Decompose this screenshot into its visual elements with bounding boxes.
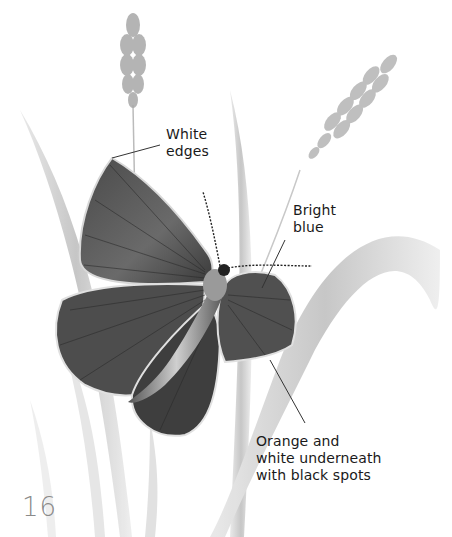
illustration-page: White edges Bright blue Orange and white… (0, 0, 452, 537)
butterfly-illustration (0, 0, 452, 537)
wheat-ear-top (120, 13, 146, 108)
leader-line-white-edges (112, 145, 160, 158)
butterfly (56, 158, 296, 436)
label-bright-blue: Bright blue (293, 202, 336, 236)
page-number: 16 (22, 492, 57, 522)
label-underside: Orange and white underneath with black s… (256, 433, 382, 484)
wheat-ear-right (300, 48, 405, 166)
label-white-edges: White edges (166, 126, 209, 160)
